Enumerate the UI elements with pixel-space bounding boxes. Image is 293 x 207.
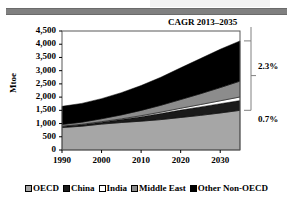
y-axis-title: Mtoe xyxy=(8,57,18,109)
legend-swatch-other-non-oecd xyxy=(190,185,197,192)
chart-figure: 05001,0001,5002,0002,5003,0003,5004,0004… xyxy=(0,0,293,207)
cagr-value-non-oecd: 2.3% xyxy=(258,61,278,71)
legend-swatch-oecd xyxy=(25,185,32,192)
legend-swatch-china xyxy=(63,185,70,192)
cagr-bracket-non-oecd xyxy=(244,41,251,110)
x-axis-tick-label: 1990 xyxy=(42,155,82,165)
legend-item: China xyxy=(63,183,95,193)
chart-legend: OECDChinaIndiaMiddle EastOther Non-OECD xyxy=(0,183,293,193)
y-axis-tick-label: 4,500 xyxy=(10,26,56,35)
legend-swatch-middle-east xyxy=(131,185,138,192)
x-axis-tick-label: 2030 xyxy=(200,155,240,165)
cagr-value-oecd: 0.7% xyxy=(258,114,278,124)
cagr-annotation-title: CAGR 2013–2035 xyxy=(168,17,237,27)
x-axis-tick-label: 2020 xyxy=(161,155,201,165)
legend-label: India xyxy=(107,183,128,193)
legend-item: Other Non-OECD xyxy=(190,183,268,193)
legend-label: Other Non-OECD xyxy=(198,183,268,193)
legend-label: China xyxy=(71,183,95,193)
x-axis-tick-label: 2000 xyxy=(82,155,122,165)
legend-label: Middle East xyxy=(139,183,186,193)
y-axis-tick-label: 1,000 xyxy=(10,119,56,128)
legend-item: Middle East xyxy=(131,183,186,193)
y-axis-tick-label: 0 xyxy=(10,145,56,154)
legend-item: India xyxy=(99,183,128,193)
legend-swatch-india xyxy=(99,185,106,192)
legend-label: OECD xyxy=(33,183,59,193)
x-axis-tick-label: 2010 xyxy=(121,155,161,165)
legend-item: OECD xyxy=(25,183,59,193)
y-axis-tick-label: 4,000 xyxy=(10,39,56,48)
y-axis-tick-label: 500 xyxy=(10,132,56,141)
